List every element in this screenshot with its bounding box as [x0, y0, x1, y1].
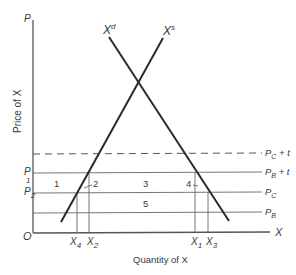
x-axis-label: X — [274, 226, 283, 238]
price-line-pb-plus-t — [33, 172, 262, 173]
pb-label: PB — [265, 206, 276, 219]
pb-plus-t-label: PB + t — [265, 166, 290, 179]
p2-label: P2 — [24, 186, 36, 200]
region-3-label: 3 — [143, 178, 148, 189]
x3-label: X3 — [205, 236, 218, 250]
region-4-leader — [193, 185, 198, 186]
x-axis-title: Quantity of X — [133, 254, 189, 265]
demand-curve — [109, 37, 229, 221]
y-axis-title: Price of X — [12, 89, 23, 133]
region-2-leader — [84, 185, 92, 188]
region-4-label: 4 — [186, 178, 191, 189]
price-line-pc-plus-t — [33, 153, 262, 154]
p1-label: P1 — [24, 166, 31, 185]
x4-label: X4 — [69, 236, 82, 250]
supply-curve — [61, 38, 163, 222]
pc-label: PC — [265, 186, 277, 199]
supply-label: Xs — [162, 23, 175, 38]
region-1-label: 1 — [54, 178, 59, 189]
region-2-label: 2 — [93, 178, 98, 189]
diagram-canvas: Xd Xs P Price of X O X Quantity of X P1 … — [0, 0, 296, 275]
demand-label: Xd — [102, 22, 116, 37]
y-axis-label: P — [24, 13, 31, 24]
origin-label: O — [23, 230, 32, 242]
region-5-label: 5 — [143, 198, 148, 209]
x1-label: X1 — [190, 236, 202, 250]
x2-label: X2 — [86, 236, 99, 250]
price-line-pc — [33, 192, 262, 193]
pc-plus-t-label: PC + t — [265, 147, 290, 160]
x-axis — [33, 232, 270, 233]
